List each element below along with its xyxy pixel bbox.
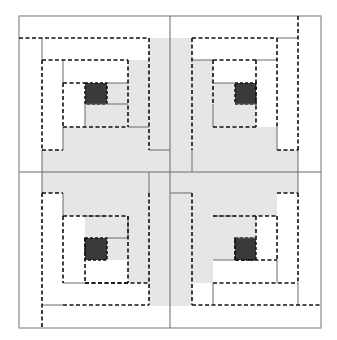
light-fabric-patch [213, 104, 256, 127]
light-fabric-patch [85, 104, 128, 127]
light-fabric-patch [192, 193, 213, 283]
center-square-top-right [235, 83, 256, 104]
light-fabric-patch [63, 127, 149, 150]
log-cabin-quilt-diagram [0, 0, 337, 340]
light-fabric-patch [192, 127, 277, 150]
light-fabric-patch [128, 193, 149, 283]
center-square-top-left [85, 83, 107, 104]
center-square-bottom-left [85, 238, 107, 260]
light-fabric-patch [213, 216, 235, 260]
center-square-bottom-right [235, 238, 256, 260]
